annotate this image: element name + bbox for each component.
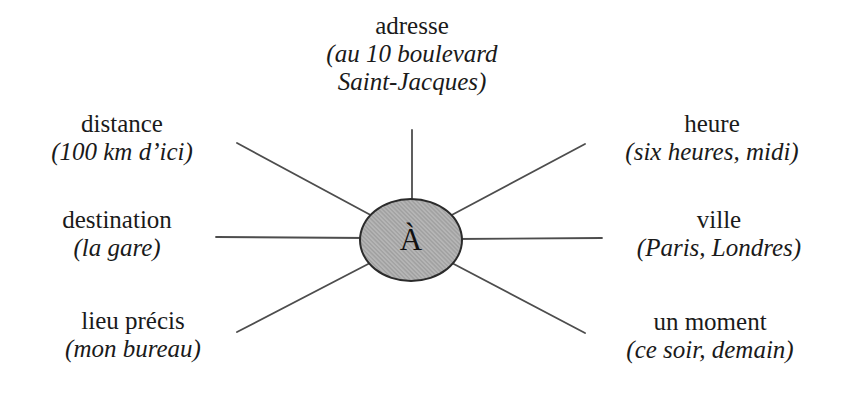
spoke-heure: [448, 144, 585, 217]
node-heure-example: (six heures, midi): [612, 138, 812, 166]
node-ville-title: ville: [619, 206, 819, 234]
node-un-moment-title: un moment: [610, 308, 810, 336]
node-destination: destination (la gare): [17, 206, 217, 262]
node-ville-example: (Paris, Londres): [619, 234, 819, 262]
spider-diagram: À adresse (au 10 boulevard Saint-Jacques…: [0, 0, 852, 397]
spoke-distance: [237, 143, 378, 219]
node-adresse-example: (au 10 boulevard Saint-Jacques): [280, 40, 544, 96]
node-destination-example: (la gare): [17, 234, 217, 262]
node-lieu-precis-example: (mon bureau): [33, 335, 233, 363]
node-distance-title: distance: [22, 110, 222, 138]
node-heure: heure (six heures, midi): [612, 110, 812, 166]
node-adresse-title: adresse: [280, 12, 544, 40]
node-heure-title: heure: [612, 110, 812, 138]
spoke-un-moment: [450, 262, 585, 333]
spoke-lieu-precis: [237, 262, 372, 332]
node-distance-example: (100 km d’ici): [22, 138, 222, 166]
node-un-moment: un moment (ce soir, demain): [610, 308, 810, 364]
node-un-moment-example: (ce soir, demain): [610, 336, 810, 364]
node-ville: ville (Paris, Londres): [619, 206, 819, 262]
node-lieu-precis-title: lieu précis: [33, 307, 233, 335]
center-node-label: À: [400, 222, 422, 258]
node-destination-title: destination: [17, 206, 217, 234]
node-distance: distance (100 km d’ici): [22, 110, 222, 166]
node-adresse: adresse (au 10 boulevard Saint-Jacques): [280, 12, 544, 96]
spoke-destination: [216, 237, 368, 238]
node-lieu-precis: lieu précis (mon bureau): [33, 307, 233, 363]
center-node-ellipse: À: [359, 198, 463, 282]
spoke-ville: [455, 238, 602, 239]
